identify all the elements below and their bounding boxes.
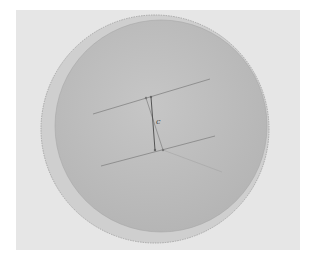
point-marker — [145, 97, 147, 99]
point-marker — [162, 149, 164, 151]
sphere-diagram: c — [0, 0, 315, 264]
point-marker — [150, 96, 152, 98]
point-marker — [154, 149, 156, 151]
segment-label-c: c — [156, 117, 161, 126]
inner-sphere — [55, 20, 267, 232]
